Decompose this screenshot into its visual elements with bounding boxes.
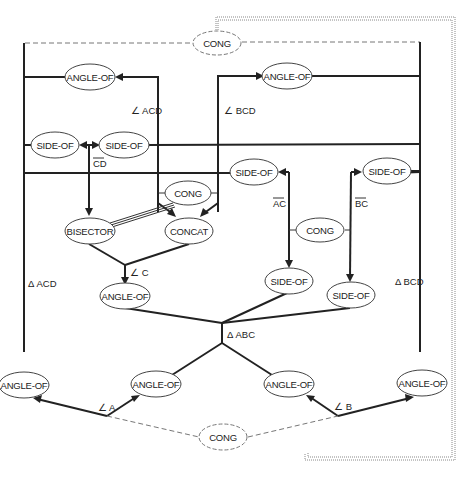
- arrowhead: [346, 274, 354, 282]
- edge-label-angle-acd: ∠ ACD: [131, 105, 162, 116]
- node-bisector[interactable]: BISECTOR: [65, 218, 115, 244]
- node-angle-of-b[interactable]: ANGLE-OF: [264, 371, 314, 397]
- node-angle-of-c[interactable]: ANGLE-OF: [100, 283, 150, 309]
- edge-side-of-mid-to-right: [149, 144, 420, 145]
- node-side-of-mid[interactable]: SIDE-OF: [99, 132, 149, 158]
- node-side-of-bc-bottom[interactable]: SIDE-OF: [327, 282, 375, 308]
- semantic-network-diagram: CONG ANGLE-OF ANGLE-OF SIDE-OF SIDE-OF S…: [0, 0, 473, 478]
- arrowhead: [278, 168, 286, 176]
- node-label: SIDE-OF: [105, 140, 143, 151]
- node-side-of-ac-top[interactable]: SIDE-OF: [230, 159, 278, 185]
- edge-segment-bc: [350, 172, 351, 278]
- node-angle-of-far-right[interactable]: ANGLE-OF: [397, 370, 447, 396]
- edge-angle-c-to-abc: [125, 308, 222, 323]
- arrowhead: [115, 73, 123, 81]
- node-label: SIDE-OF: [368, 166, 406, 177]
- node-angle-of-acd[interactable]: ANGLE-OF: [65, 64, 115, 90]
- edge-cong-to-bisector-2: [111, 205, 174, 225]
- node-cong-mid[interactable]: CONG: [165, 181, 211, 205]
- node-label: CONCAT: [170, 226, 209, 237]
- node-concat[interactable]: CONCAT: [165, 218, 213, 244]
- edge-label-angle-c: ∠ C: [130, 267, 149, 278]
- edge-label-triangle-acd: Δ ACD: [28, 278, 57, 289]
- node-label: ANGLE-OF: [102, 291, 149, 302]
- edge-label-triangle-bcd: Δ BCD: [395, 276, 424, 287]
- node-angle-of-a[interactable]: ANGLE-OF: [131, 371, 181, 397]
- edge-bisector-to-c: [89, 244, 125, 265]
- node-label: SIDE-OF: [235, 167, 273, 178]
- dashed-link-cong-bottom-right: [248, 416, 338, 437]
- node-label: CONG: [174, 188, 202, 199]
- edge-label-angle-bcd: ∠ BCD: [224, 105, 256, 116]
- dashed-link-cong-bottom-left: [107, 416, 199, 437]
- node-cong-sides[interactable]: CONG: [296, 218, 344, 242]
- edge-angle-a-left: [37, 399, 107, 416]
- node-label: CONG: [203, 38, 231, 49]
- node-side-of-left[interactable]: SIDE-OF: [31, 132, 79, 158]
- node-side-of-bc-top[interactable]: SIDE-OF: [363, 158, 411, 184]
- node-label: CONG: [209, 432, 237, 443]
- arrowhead: [85, 208, 93, 216]
- edge-label-angle-b: ∠ B: [334, 401, 352, 412]
- node-angle-of-far-left[interactable]: ANGLE-OF: [0, 372, 49, 398]
- edge-concat-to-c: [125, 244, 189, 265]
- node-label: ANGLE-OF: [399, 378, 446, 389]
- node-angle-of-bcd[interactable]: ANGLE-OF: [262, 63, 312, 89]
- edge-abc-to-angle-b: [222, 343, 272, 375]
- node-label: ANGLE-OF: [133, 379, 180, 390]
- node-label: ANGLE-OF: [264, 71, 311, 82]
- edge-label-segment-ac: AC: [273, 198, 286, 209]
- node-label: CONG: [306, 225, 334, 236]
- edge-label-angle-a: ∠ A: [98, 402, 116, 413]
- edge-abc-to-angle-a: [172, 343, 222, 375]
- arrowhead: [131, 395, 140, 402]
- node-label: BISECTOR: [67, 226, 114, 237]
- node-label: SIDE-OF: [332, 290, 370, 301]
- node-label: ANGLE-OF: [1, 380, 48, 391]
- arrowhead: [79, 141, 87, 149]
- node-cong-top[interactable]: CONG: [193, 31, 241, 55]
- arrowhead: [354, 168, 362, 176]
- arrowhead: [285, 260, 293, 268]
- node-label: SIDE-OF: [36, 140, 74, 151]
- node-side-of-ac-bottom[interactable]: SIDE-OF: [265, 268, 313, 294]
- edge-label-triangle-abc: Δ ABC: [227, 329, 255, 340]
- node-label: SIDE-OF: [270, 276, 308, 287]
- node-cong-bottom[interactable]: CONG: [199, 424, 247, 450]
- edge-label-segment-bc: BC: [355, 198, 368, 209]
- node-label: ANGLE-OF: [266, 379, 313, 390]
- node-label: ANGLE-OF: [67, 72, 114, 83]
- edge-label-segment-cd: CD: [93, 158, 107, 169]
- edge-cong-to-bisector-3: [112, 207, 175, 227]
- edge-side-bc-to-abc: [222, 308, 350, 323]
- edge-cong-to-bisector-1: [110, 203, 173, 223]
